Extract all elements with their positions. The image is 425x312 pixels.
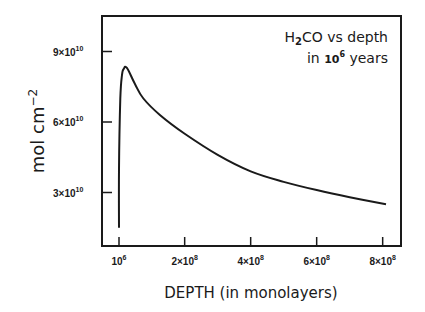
- y-tick-label: 9×1010: [53, 45, 83, 58]
- y-axis-title: mol cm−2: [26, 89, 48, 173]
- chart-annotation-line1: H2CO vs depth: [284, 29, 388, 47]
- x-tick-label: 106: [111, 254, 126, 267]
- y-tick-label: 3×1010: [53, 186, 83, 199]
- y-axis: 3×10106×10109×1010: [53, 45, 112, 199]
- data-line-h2co: [119, 67, 386, 228]
- x-tick-label: 6×108: [303, 254, 330, 267]
- x-axis: 1062×1084×1086×1088×108: [111, 237, 395, 267]
- x-tick-label: 8×108: [369, 254, 396, 267]
- chart: 3×10106×10109×1010 1062×1084×1086×1088×1…: [0, 0, 425, 312]
- y-tick-label: 6×1010: [53, 115, 83, 128]
- x-tick-label: 4×108: [237, 254, 264, 267]
- chart-annotation-line2: in 106 years: [307, 50, 388, 66]
- x-axis-title: DEPTH (in monolayers): [164, 284, 337, 302]
- x-tick-label: 2×108: [171, 254, 198, 267]
